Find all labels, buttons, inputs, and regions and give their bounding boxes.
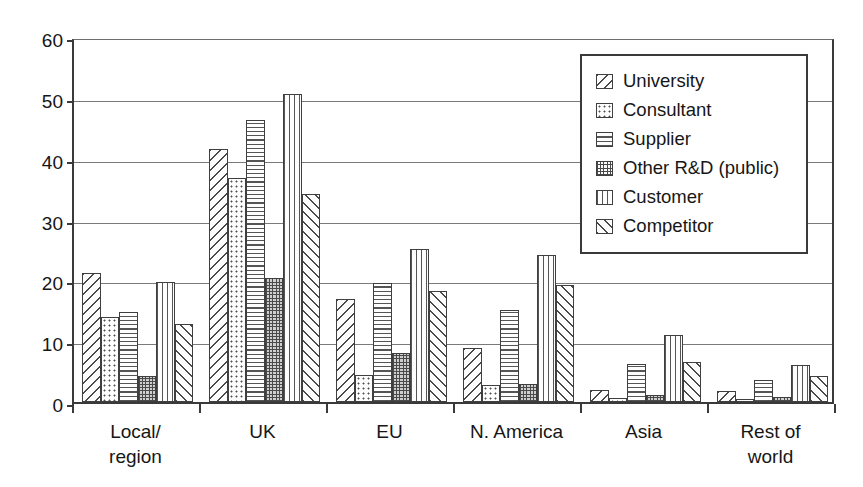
x-category-label-asia: Asia (625, 419, 662, 444)
bar-chart-figure: 0102030405060 Local/ regionUKEUN. Americ… (0, 0, 863, 487)
y-tick-label: 20 (42, 274, 63, 293)
x-tick-mark (707, 404, 709, 413)
x-tick-mark (453, 404, 455, 413)
legend-swatch-supplier-icon (596, 132, 613, 147)
x-tick-mark (326, 404, 328, 413)
bar-university (717, 391, 736, 402)
legend-item[interactable]: Other R&D (public) (596, 154, 806, 183)
legend: University Consultant Supplier Other R&D… (580, 54, 808, 254)
bar-university (590, 390, 609, 402)
bar-customer (410, 249, 429, 402)
y-tick-label: 40 (42, 152, 63, 171)
bar-competitor (175, 324, 194, 402)
y-tick-label: 60 (42, 31, 63, 50)
bar-consultant (101, 317, 120, 402)
y-tick-mark (67, 223, 74, 225)
bar-other-randd-public (265, 278, 284, 402)
bar-other-randd-public (519, 384, 538, 402)
bar-competitor (556, 285, 575, 402)
y-tick-label: 30 (42, 213, 63, 232)
bar-other-randd-public (392, 353, 411, 402)
legend-label: Competitor (623, 217, 713, 236)
y-tick-mark (67, 101, 74, 103)
bar-customer (283, 94, 302, 402)
bar-supplier (754, 380, 773, 403)
x-tick-mark (199, 404, 201, 413)
x-category-label-eu: EU (376, 419, 402, 444)
bar-consultant (609, 398, 628, 402)
bar-university (82, 273, 101, 402)
x-tick-mark (580, 404, 582, 413)
bar-university (209, 149, 228, 402)
legend-item[interactable]: University (596, 67, 806, 96)
y-tick-label: 0 (52, 396, 63, 415)
bar-other-randd-public (138, 376, 157, 402)
bar-consultant (228, 178, 247, 402)
legend-swatch-competitor-icon (596, 219, 613, 234)
bar-competitor (810, 376, 829, 402)
bar-competitor (683, 362, 702, 402)
x-category-label-local-region: Local/ region (109, 419, 162, 469)
legend-label: Customer (623, 188, 703, 207)
y-tick-label: 50 (42, 91, 63, 110)
bar-consultant (355, 375, 374, 402)
x-category-label-uk: UK (249, 419, 275, 444)
y-tick-mark (67, 283, 74, 285)
y-tick-mark (67, 344, 74, 346)
y-tick-mark (67, 162, 74, 164)
bar-other-randd-public (646, 395, 665, 402)
x-tick-mark (72, 404, 74, 413)
bar-university (463, 348, 482, 402)
legend-label: University (623, 72, 704, 91)
y-tick-mark (67, 40, 74, 42)
legend-swatch-university-icon (596, 74, 613, 89)
x-category-label-rest-of-world: Rest of world (740, 419, 800, 469)
bar-supplier (373, 283, 392, 402)
bar-customer (664, 335, 683, 402)
legend-label: Supplier (623, 130, 691, 149)
legend-swatch-customer-icon (596, 190, 613, 205)
legend-item[interactable]: Consultant (596, 96, 806, 125)
y-tick-label: 10 (42, 335, 63, 354)
x-tick-mark (834, 404, 836, 413)
bar-supplier (500, 310, 519, 402)
bar-supplier (246, 120, 265, 402)
bar-supplier (627, 364, 646, 402)
legend-item[interactable]: Competitor (596, 212, 806, 241)
legend-label: Other R&D (public) (623, 159, 779, 178)
legend-item[interactable]: Customer (596, 183, 806, 212)
bar-consultant (736, 399, 755, 402)
bar-competitor (302, 194, 321, 402)
bar-competitor (429, 291, 448, 402)
bar-other-randd-public (773, 397, 792, 402)
bar-customer (791, 365, 810, 402)
bar-university (336, 299, 355, 402)
bar-customer (537, 255, 556, 402)
x-axis: Local/ regionUKEUN. AmericaAsiaRest of w… (72, 404, 834, 487)
bar-consultant (482, 385, 501, 402)
legend-item[interactable]: Supplier (596, 125, 806, 154)
x-category-label-n-america: N. America (470, 419, 563, 444)
bar-customer (156, 282, 175, 402)
legend-label: Consultant (623, 101, 711, 120)
bar-supplier (119, 312, 138, 402)
legend-swatch-consultant-icon (596, 103, 613, 118)
legend-swatch-other-rd-icon (596, 161, 613, 176)
